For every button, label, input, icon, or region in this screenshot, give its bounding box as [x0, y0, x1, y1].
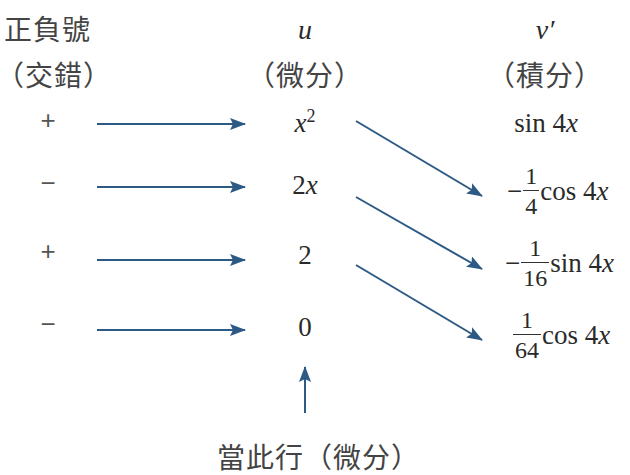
v-row-3: − 1 16 sin 4x	[505, 236, 614, 290]
v-row-3-var: x	[602, 248, 614, 279]
arrow-diag-1	[356, 121, 482, 196]
sign-row-4: −	[40, 309, 55, 340]
header-u-subtitle: （微分）	[247, 54, 363, 94]
u-row-1: x2	[295, 108, 316, 139]
u-row-1-base: x	[295, 108, 307, 138]
v-row-3-func: sin 4	[550, 248, 602, 279]
sign-row-2: −	[40, 168, 55, 199]
v-row-3-fraction: 1 16	[521, 236, 549, 290]
sign-row-3: +	[40, 236, 55, 267]
header-sign-subtitle: （交錯）	[0, 54, 112, 94]
arrow-diag-2	[356, 197, 482, 269]
v-row-1-var: x	[566, 108, 578, 138]
v-row-1: sin 4x	[514, 108, 578, 139]
header-sign-title: 正負號	[4, 8, 91, 48]
v-row-1-func: sin 4	[514, 108, 566, 138]
v-row-2-var: x	[596, 176, 608, 207]
v-row-2-sign: −	[507, 176, 522, 207]
v-row-3-numerator: 1	[527, 236, 543, 262]
v-row-2-func: cos 4	[540, 176, 596, 207]
v-row-2: − 1 4 cos 4x	[507, 164, 608, 218]
v-row-4-var: x	[598, 320, 610, 351]
header-u-title: u	[298, 14, 312, 46]
v-row-2-denominator: 4	[523, 190, 539, 218]
header-v-title: v′	[536, 14, 555, 46]
arrow-diag-3	[356, 265, 482, 340]
u-row-1-exponent: 2	[306, 106, 315, 126]
v-row-4: 1 64 cos 4x	[512, 308, 610, 362]
sign-row-1: +	[40, 105, 55, 136]
header-v-subtitle: （積分）	[487, 54, 603, 94]
u-row-2-var: x	[306, 170, 318, 200]
v-row-2-numerator: 1	[523, 164, 539, 190]
v-row-4-numerator: 1	[519, 308, 535, 334]
v-row-4-denominator: 64	[513, 334, 541, 362]
footer-label: 當此行（微分）	[217, 436, 420, 475]
u-row-3: 2	[298, 240, 312, 271]
u-row-2-coef: 2	[292, 170, 306, 200]
u-row-2: 2x	[292, 170, 317, 201]
v-row-4-fraction: 1 64	[513, 308, 541, 362]
v-row-2-fraction: 1 4	[523, 164, 539, 218]
v-row-4-func: cos 4	[542, 320, 598, 351]
u-row-4: 0	[298, 312, 312, 343]
v-row-3-sign: −	[505, 248, 520, 279]
v-row-3-denominator: 16	[521, 262, 549, 290]
